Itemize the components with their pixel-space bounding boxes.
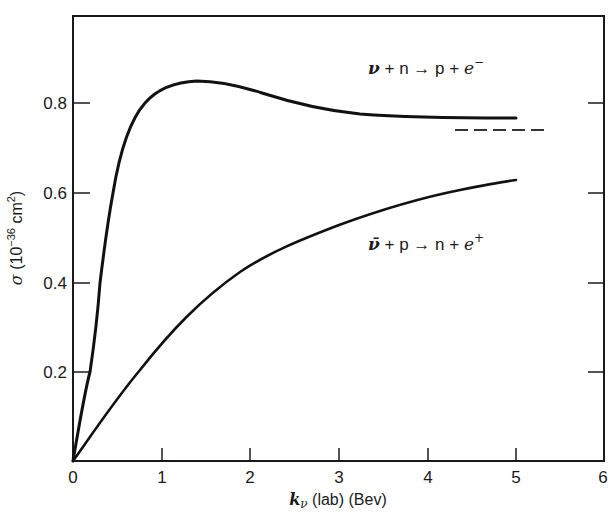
x-tick-label: 4	[423, 468, 432, 487]
reaction-label-neutrino: ν + n → p + e−	[368, 55, 484, 78]
antineutrino-curve	[73, 180, 516, 461]
y-axis-ticks-left	[73, 103, 90, 372]
y-tick-labels: 0.8 0.6 0.4 0.2	[43, 94, 67, 382]
y-tick-label: 0.2	[43, 363, 67, 382]
y-axis-label: σ (10−36 cm2)	[5, 191, 26, 285]
x-tick-label: 6	[598, 468, 607, 487]
cross-section-chart: 0 1 2 3 4 5 6 0.8 0.6 0.4 0.2 kν (lab) (…	[0, 0, 616, 514]
y-axis-ticks-right	[588, 103, 604, 372]
plot-frame	[73, 16, 604, 461]
x-tick-label: 1	[157, 468, 166, 487]
x-tick-label: 2	[245, 468, 254, 487]
y-tick-label: 0.6	[43, 184, 67, 203]
x-tick-labels: 0 1 2 3 4 5 6	[68, 468, 607, 487]
x-tick-label: 5	[511, 468, 520, 487]
x-axis-ticks	[162, 448, 516, 461]
x-tick-label: 3	[334, 468, 343, 487]
x-tick-label: 0	[68, 468, 77, 487]
neutrino-curve	[73, 81, 516, 461]
reaction-label-antineutrino: ν̄ + p → n + e+	[368, 231, 484, 254]
x-axis-label: kν (lab) (Bev)	[289, 490, 387, 511]
y-tick-label: 0.4	[43, 274, 67, 293]
y-tick-label: 0.8	[43, 94, 67, 113]
